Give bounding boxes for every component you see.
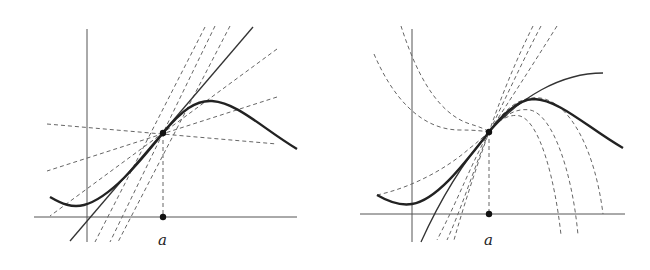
left-panel: a <box>34 26 297 249</box>
right-tangent-point <box>486 129 492 135</box>
left-a-label: a <box>158 231 167 249</box>
figure: a a <box>0 0 650 270</box>
right-a-label: a <box>484 231 493 249</box>
left-a-point <box>160 214 166 220</box>
right-panel: a <box>360 26 625 249</box>
left-tangent-point <box>160 130 166 136</box>
right-a-point <box>486 211 492 217</box>
